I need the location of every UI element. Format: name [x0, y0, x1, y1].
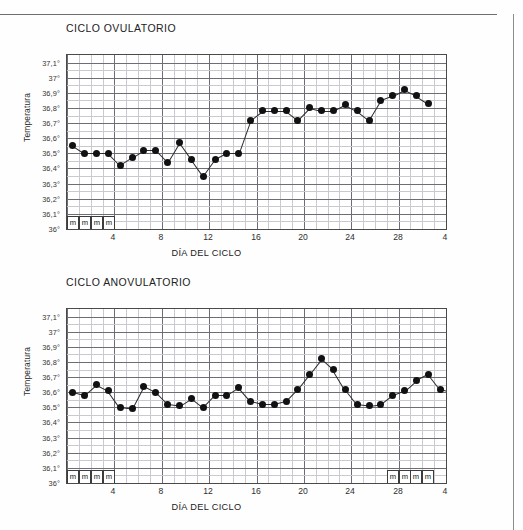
menstruation-cell: m	[387, 470, 399, 483]
data-point[interactable]	[306, 104, 313, 111]
y-tick-label: 36,9°	[42, 88, 60, 97]
data-point[interactable]	[366, 402, 373, 409]
data-point[interactable]	[306, 371, 313, 378]
data-point[interactable]	[283, 398, 290, 405]
x-tick-label: 4	[111, 232, 116, 242]
data-point[interactable]	[117, 162, 124, 169]
data-point[interactable]	[117, 404, 124, 411]
y-tick-label: 36°	[49, 225, 60, 234]
right-divider	[513, 14, 514, 530]
data-point[interactable]	[354, 401, 361, 408]
gridline-vertical	[446, 309, 447, 483]
data-point[interactable]	[235, 150, 242, 157]
data-point[interactable]	[437, 386, 444, 393]
data-point[interactable]	[318, 107, 325, 114]
data-point[interactable]	[105, 150, 112, 157]
data-point[interactable]	[140, 147, 147, 154]
data-point[interactable]	[294, 386, 301, 393]
y-tick-label: 36,5°	[42, 149, 60, 158]
data-point[interactable]	[425, 371, 432, 378]
data-point[interactable]	[389, 92, 396, 99]
temperature-series-anovulatory	[67, 309, 446, 483]
y-tick-label: 36,3°	[42, 433, 60, 442]
x-tick-label: 4	[443, 232, 448, 242]
data-point[interactable]	[342, 386, 349, 393]
data-point[interactable]	[164, 159, 171, 166]
menstruation-cell: m	[103, 216, 115, 229]
data-point[interactable]	[212, 156, 219, 163]
y-axis-tick-labels-anovulatory: 37,1°37°36,9°36,8°36,7°36,6°36,5°36,4°36…	[0, 308, 64, 484]
data-point[interactable]	[330, 107, 337, 114]
data-point[interactable]	[212, 392, 219, 399]
page-canvas: CICLO OVULATORIO Temperatura 37,1°37°36,…	[0, 0, 523, 530]
data-point[interactable]	[164, 401, 171, 408]
x-axis-tick-labels-ovulatory: 4812162024284	[66, 232, 447, 246]
data-point[interactable]	[81, 150, 88, 157]
data-point[interactable]	[425, 100, 432, 107]
data-point[interactable]	[200, 404, 207, 411]
menstruation-cell: m	[422, 470, 434, 483]
data-point[interactable]	[247, 398, 254, 405]
y-tick-label: 37°	[49, 73, 60, 82]
y-tick-label: 36,5°	[42, 403, 60, 412]
data-point[interactable]	[294, 117, 301, 124]
temperature-series-ovulatory	[67, 55, 446, 229]
data-point[interactable]	[366, 117, 373, 124]
x-tick-label: 28	[393, 486, 403, 496]
y-tick-label: 36,8°	[42, 103, 60, 112]
x-tick-label: 8	[159, 486, 164, 496]
x-tick-label: 4	[443, 486, 448, 496]
data-point[interactable]	[129, 154, 136, 161]
data-point[interactable]	[389, 392, 396, 399]
data-point[interactable]	[259, 107, 266, 114]
data-point[interactable]	[271, 107, 278, 114]
data-point[interactable]	[413, 377, 420, 384]
x-axis-title-ovulatory: DÍA DEL CICLO	[0, 248, 497, 258]
gridline-horizontal	[67, 229, 446, 230]
chart-title-ovulatory: CICLO OVULATORIO	[66, 22, 176, 34]
y-tick-label: 37,1°	[42, 58, 60, 67]
data-point[interactable]	[93, 150, 100, 157]
data-point[interactable]	[377, 97, 384, 104]
menstruation-cell: m	[79, 470, 91, 483]
x-tick-label: 16	[251, 486, 261, 496]
data-point[interactable]	[81, 392, 88, 399]
y-tick-label: 36°	[49, 479, 60, 488]
data-point[interactable]	[223, 150, 230, 157]
data-point[interactable]	[271, 401, 278, 408]
y-tick-label: 36,8°	[42, 357, 60, 366]
data-point[interactable]	[69, 389, 76, 396]
menstruation-cell: m	[91, 470, 103, 483]
y-tick-label: 36,3°	[42, 179, 60, 188]
series-segment	[239, 120, 252, 154]
data-point[interactable]	[330, 366, 337, 373]
y-axis-tick-labels-ovulatory: 37,1°37°36,9°36,8°36,7°36,6°36,5°36,4°36…	[0, 54, 64, 230]
y-tick-label: 36,6°	[42, 134, 60, 143]
y-tick-label: 36,7°	[42, 373, 60, 382]
y-tick-label: 36,2°	[42, 448, 60, 457]
y-tick-label: 36,4°	[42, 164, 60, 173]
data-point[interactable]	[105, 387, 112, 394]
data-point[interactable]	[152, 389, 159, 396]
data-point[interactable]	[401, 387, 408, 394]
y-tick-label: 37°	[49, 327, 60, 336]
plot-area-ovulatory: mmmm	[66, 54, 447, 230]
data-point[interactable]	[200, 173, 207, 180]
x-axis-tick-labels-anovulatory: 4812162024284	[66, 486, 447, 500]
data-point[interactable]	[176, 402, 183, 409]
y-tick-label: 36,6°	[42, 388, 60, 397]
y-tick-label: 36,1°	[42, 463, 60, 472]
x-tick-label: 24	[345, 486, 355, 496]
data-point[interactable]	[377, 401, 384, 408]
data-point[interactable]	[259, 401, 266, 408]
data-point[interactable]	[223, 392, 230, 399]
data-point[interactable]	[247, 117, 254, 124]
gridline-horizontal	[67, 483, 446, 484]
data-point[interactable]	[188, 156, 195, 163]
chart-ovulatory: CICLO OVULATORIO Temperatura 37,1°37°36,…	[0, 18, 497, 270]
data-point[interactable]	[129, 405, 136, 412]
x-tick-label: 20	[298, 486, 308, 496]
y-tick-label: 36,2°	[42, 194, 60, 203]
x-tick-label: 8	[159, 232, 164, 242]
data-point[interactable]	[188, 395, 195, 402]
